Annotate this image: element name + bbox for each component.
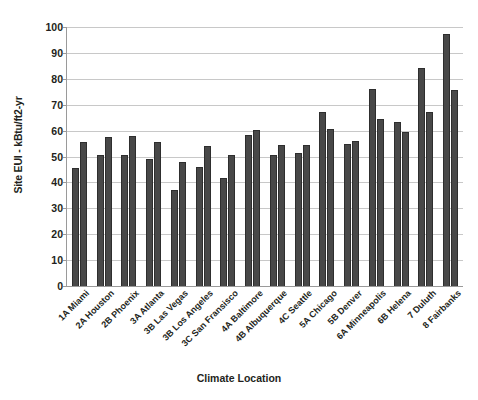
bar (154, 142, 161, 286)
y-tick-label: 70 (30, 99, 63, 110)
y-tick-label: 60 (30, 125, 63, 136)
bar-group (389, 27, 414, 286)
bar-group (191, 27, 216, 286)
bar (344, 144, 351, 286)
bar (443, 34, 450, 286)
bar (179, 162, 186, 286)
y-axis-title-text: Site EUI - kBtu/ft2-yr (12, 96, 24, 193)
bar (369, 89, 376, 286)
bar (319, 112, 326, 286)
bar (245, 135, 252, 286)
plot-area (66, 27, 463, 287)
bar (327, 129, 334, 286)
bar (105, 137, 112, 286)
bar (352, 141, 359, 286)
bar (228, 155, 235, 286)
bar (402, 132, 409, 286)
bar-group (92, 27, 117, 286)
bar-group (240, 27, 265, 286)
bar-group (166, 27, 191, 286)
bar (72, 168, 79, 286)
bars-layer (67, 27, 463, 286)
y-tick-label: 100 (30, 22, 63, 33)
bar-group (414, 27, 439, 286)
bar (394, 122, 401, 286)
y-axis-tick-labels: 0102030405060708090100 (30, 21, 63, 286)
bar-group (216, 27, 241, 286)
y-tick-label: 30 (30, 203, 63, 214)
bar (426, 112, 433, 286)
x-axis-tick-labels: 1A Miami2A Houston2B Phoenix3A Atlanta3B… (66, 288, 462, 368)
y-tick-label: 0 (30, 281, 63, 292)
bar (97, 155, 104, 286)
bar-group (265, 27, 290, 286)
y-tick-label: 20 (30, 229, 63, 240)
bar (204, 146, 211, 286)
bar (196, 167, 203, 286)
bar-group (117, 27, 142, 286)
bar-group (364, 27, 389, 286)
y-tick-label: 50 (30, 151, 63, 162)
x-axis-title: Climate Location (0, 372, 478, 384)
bar (171, 190, 178, 286)
bar-group (315, 27, 340, 286)
bar-group (290, 27, 315, 286)
bar (303, 145, 310, 286)
bar-group (67, 27, 92, 286)
bar (451, 90, 458, 286)
bar (295, 153, 302, 286)
y-tick-label: 90 (30, 47, 63, 58)
y-tick-label: 80 (30, 73, 63, 84)
bar (278, 145, 285, 286)
bar-group (141, 27, 166, 286)
bar (129, 136, 136, 286)
y-tick-label: 40 (30, 177, 63, 188)
site-eui-bar-chart: Site EUI - kBtu/ft2-yr 01020304050607080… (0, 0, 478, 400)
bar (220, 178, 227, 286)
bar (377, 119, 384, 286)
bar (418, 68, 425, 286)
y-tick-label: 10 (30, 255, 63, 266)
bar-group (438, 27, 463, 286)
bar (146, 159, 153, 286)
bar-group (339, 27, 364, 286)
bar (80, 142, 87, 286)
bar (253, 130, 260, 286)
bar (270, 155, 277, 286)
y-axis-tickmark (63, 286, 67, 287)
bar (121, 155, 128, 286)
